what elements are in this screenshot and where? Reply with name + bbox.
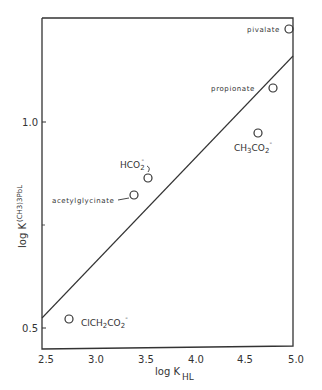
point-chloroacetate [65,315,73,323]
y-axis-label: log K(CH3)3PbL [16,185,28,248]
label-acetylglycinate: acetylglycinate [52,197,114,205]
plot-frame [42,18,293,349]
y-tick-label-0.5: 0.5 [22,323,38,334]
leader-formate [147,166,149,172]
x-tick-label-5.0: 5.0 [288,354,304,365]
point-pivalate [285,25,293,33]
leader-acetylglycinate [118,198,129,200]
point-acetylglycinate [130,191,138,199]
label-chloroacetate: ClCH2CO2- [81,314,128,330]
x-axis-label: log KHL [155,366,194,382]
label-propionate: propionate [211,85,255,93]
label-pivalate: pivalate [247,26,280,34]
x-tick-label-3.0: 3.0 [88,354,104,365]
x-tick-label-3.5: 3.5 [138,354,154,365]
x-tick-label-4.5: 4.5 [237,354,253,365]
point-formate [144,174,152,182]
point-acetate [254,129,262,137]
label-acetate: CH3CO2- [234,139,272,155]
scatter-chart: 1.0 0.5 2.5 3.0 3.5 4.0 4.5 5.0 log KHL … [0,0,322,390]
x-tick-label-2.5: 2.5 [38,354,54,365]
x-tick-label-4.0: 4.0 [188,354,204,365]
fit-line [42,56,293,318]
y-tick-label-1.0: 1.0 [22,117,38,128]
point-propionate [269,84,277,92]
label-formate: HCO2- [120,156,145,172]
